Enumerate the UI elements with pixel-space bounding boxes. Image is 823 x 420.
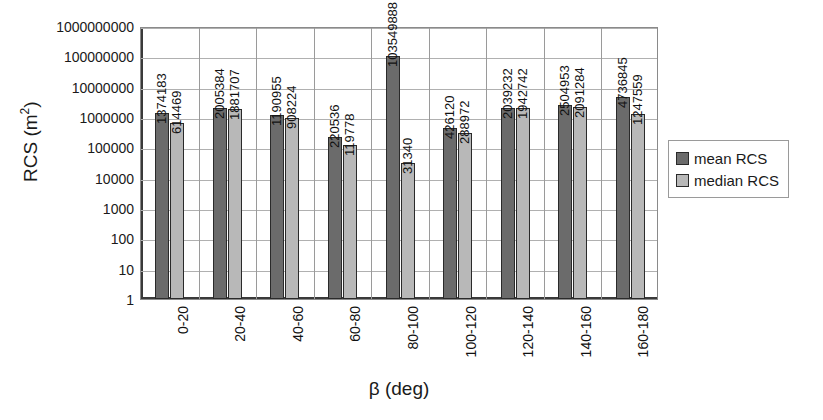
bar — [501, 108, 515, 299]
y-axis-tick-label: 100000 — [6, 141, 134, 155]
y-axis-tick-label: 1 — [6, 293, 134, 307]
bar — [155, 113, 169, 299]
y-axis-tick-label: 10 — [6, 263, 134, 277]
bar — [343, 145, 357, 299]
bar-value-label: 119778 — [343, 114, 356, 156]
x-axis-tick-label: 80-100 — [406, 306, 420, 350]
bar — [228, 109, 242, 299]
rcs-bar-chart: RCS (m2) 1000000000100000000100000001000… — [0, 0, 823, 420]
bar — [631, 114, 645, 299]
x-axis-tick-label: 160-180 — [636, 306, 650, 357]
vertical-gridline — [371, 28, 372, 299]
bar — [328, 137, 342, 299]
legend-swatch-icon — [676, 152, 689, 165]
vertical-gridline — [256, 28, 257, 299]
bar-value-label: 1881707 — [228, 69, 241, 120]
bar — [573, 107, 587, 299]
bar-value-label: 2504953 — [558, 65, 571, 116]
y-axis-tick-label: 1000 — [6, 202, 134, 216]
x-axis-tick-label: 40-60 — [291, 306, 305, 342]
bar — [443, 128, 457, 299]
vertical-gridline — [429, 28, 430, 299]
legend-label: mean RCS — [694, 151, 767, 166]
bar-value-label: 908224 — [285, 86, 298, 129]
bar-value-label: 1374183 — [155, 73, 168, 124]
x-axis-tick-label: 0-20 — [176, 306, 190, 334]
plot-area: 1374183614469200538418817071190955908224… — [140, 27, 658, 300]
x-axis-tick-label: 100-120 — [464, 306, 478, 357]
bar-value-label: 426120 — [443, 96, 456, 139]
vertical-gridline — [486, 28, 487, 299]
bar — [516, 108, 530, 299]
y-axis-tick-labels: 1000000000100000000100000001000000100000… — [6, 27, 134, 300]
bar — [170, 123, 184, 299]
bar — [458, 133, 472, 299]
bar-value-label: 288972 — [458, 101, 471, 144]
bar-value-label: 2039232 — [501, 68, 514, 119]
bar — [386, 56, 400, 299]
bar — [558, 105, 572, 299]
y-axis-tick-label: 100 — [6, 232, 134, 246]
legend-label: median RCS — [694, 173, 779, 188]
bar — [616, 97, 630, 299]
x-axis-tick-label: 60-80 — [348, 306, 362, 342]
legend-item: median RCS — [676, 169, 779, 191]
bar-value-label: 1247559 — [631, 74, 644, 125]
y-axis-tick-label: 1000000 — [6, 111, 134, 125]
bar-value-label: 220536 — [328, 105, 341, 148]
bar-value-label: 4736845 — [616, 57, 629, 108]
bar-value-label: 614469 — [170, 91, 183, 134]
bar-value-label: 2005384 — [213, 68, 226, 119]
bar — [285, 118, 299, 299]
x-axis-tick-label: 140-160 — [579, 306, 593, 357]
vertical-gridline — [199, 28, 200, 299]
x-axis-tick-label: 120-140 — [521, 306, 535, 357]
y-axis-tick-label: 10000000 — [6, 81, 134, 95]
legend-swatch-icon — [676, 174, 689, 187]
y-axis-line — [141, 28, 143, 299]
y-axis-tick-label: 10000 — [6, 172, 134, 186]
bar — [270, 115, 284, 299]
y-axis-tick-label: 1000000000 — [6, 20, 134, 34]
bar-value-label: 1942742 — [516, 69, 529, 120]
bar-value-label: 31340 — [401, 137, 414, 173]
bar-value-label: 1190955 — [270, 76, 283, 126]
x-axis-tick-label: 20-40 — [233, 306, 247, 342]
legend-item: mean RCS — [676, 147, 779, 169]
vertical-gridline — [544, 28, 545, 299]
chart-legend: mean RCSmedian RCS — [668, 140, 789, 198]
x-axis-tick-labels: 0-2020-4040-6060-8080-100100-120120-1401… — [140, 302, 658, 372]
bar — [213, 108, 227, 299]
bar — [401, 163, 415, 299]
vertical-gridline — [601, 28, 602, 299]
bar-value-label: 2091284 — [573, 68, 586, 119]
vertical-gridline — [314, 28, 315, 299]
x-axis-title: β (deg) — [140, 378, 658, 400]
y-axis-tick-label: 100000000 — [6, 50, 134, 64]
bar-value-label: 103549888 — [386, 2, 399, 67]
